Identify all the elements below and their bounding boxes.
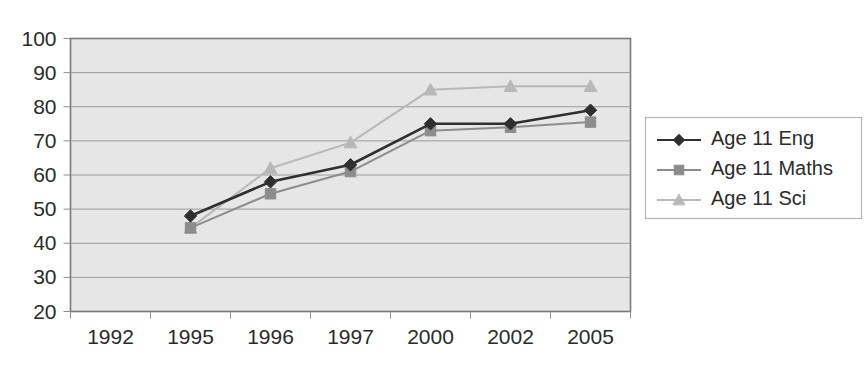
x-axis-tick-label: 1997 bbox=[327, 325, 374, 348]
y-axis-tick-label: 50 bbox=[33, 197, 56, 220]
chart-legend: Age 11 EngAge 11 MathsAge 11 Sci bbox=[646, 118, 862, 219]
y-axis-tick-label: 40 bbox=[33, 231, 56, 254]
x-axis-tick-label: 2000 bbox=[407, 325, 454, 348]
chart-canvas: 2030405060708090100 19921995199619972000… bbox=[0, 0, 865, 370]
legend-item-label: Age 11 Sci bbox=[711, 187, 806, 209]
data-point-marker-square bbox=[185, 223, 195, 233]
y-axis-tick-label: 80 bbox=[33, 95, 56, 118]
x-axis-tick-label: 1996 bbox=[247, 325, 294, 348]
x-axis-tick-label: 2002 bbox=[487, 325, 534, 348]
legend-item-label: Age 11 Eng bbox=[711, 127, 814, 149]
x-axis-tick-label: 1995 bbox=[167, 325, 214, 348]
y-axis-tick-label: 90 bbox=[33, 61, 56, 84]
legend-item-label: Age 11 Maths bbox=[711, 157, 833, 179]
data-point-marker-square bbox=[674, 165, 684, 175]
data-point-marker-square bbox=[265, 189, 275, 199]
y-axis-tick-label: 30 bbox=[33, 265, 56, 288]
y-axis-tick-label: 100 bbox=[21, 27, 56, 50]
y-axis-tick-label: 70 bbox=[33, 129, 56, 152]
y-axis-tick-label: 20 bbox=[33, 300, 56, 323]
y-axis-tick-label: 60 bbox=[33, 163, 56, 186]
x-axis-tick-label: 1992 bbox=[87, 325, 134, 348]
line-chart: 2030405060708090100 19921995199619972000… bbox=[0, 0, 865, 370]
data-point-marker-square bbox=[585, 117, 595, 127]
x-axis-tick-label: 2005 bbox=[567, 325, 614, 348]
